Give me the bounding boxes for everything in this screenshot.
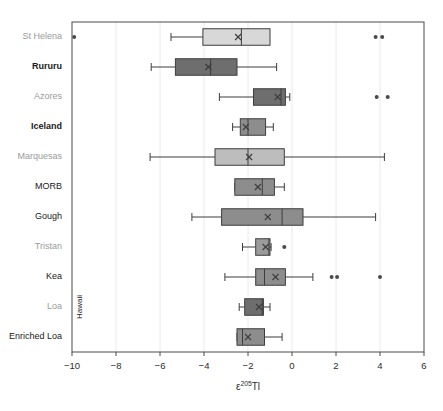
x-axis-title: ε205Tl	[236, 380, 260, 392]
box-rect	[245, 299, 264, 316]
outlier-point-1	[374, 35, 378, 39]
box-group-enriched-loa[interactable]	[237, 329, 282, 346]
box-group-loa[interactable]	[239, 299, 270, 316]
boxplot-svg: −10−8−6−4−20246ε205TlSt HelenaRururuAzor…	[0, 0, 443, 411]
box-rect	[240, 119, 265, 136]
box-group-morb[interactable]	[235, 179, 284, 196]
box-rect	[175, 59, 237, 76]
box-rect	[222, 209, 303, 226]
outlier-point-0	[282, 245, 286, 249]
category-label-loa: Loa	[47, 301, 62, 311]
outlier-point-1	[386, 95, 390, 99]
box-rect	[237, 329, 265, 346]
xtick-label-8: 6	[421, 360, 426, 371]
box-group-azores[interactable]	[219, 89, 389, 106]
xtick-label-7: 4	[377, 360, 382, 371]
box-group-tristan[interactable]	[243, 239, 287, 256]
category-label-azores: Azores	[34, 91, 63, 101]
group-label-hawaii: Hawaii	[75, 295, 84, 319]
box-rect	[256, 269, 286, 286]
box-group-marquesas[interactable]	[150, 149, 384, 166]
xtick-label-4: −2	[243, 360, 254, 371]
box-rect	[235, 179, 275, 196]
category-label-tristan: Tristan	[35, 241, 62, 251]
category-label-rururu: Rururu	[32, 61, 62, 71]
xtick-label-6: 2	[333, 360, 338, 371]
category-label-marquesas: Marquesas	[17, 151, 62, 161]
outlier-point-0	[375, 95, 379, 99]
box-group-st-helena[interactable]	[72, 29, 384, 46]
box-group-gough[interactable]	[192, 209, 376, 226]
category-label-gough: Gough	[35, 211, 62, 221]
outlier-point-2	[378, 275, 382, 279]
box-group-iceland[interactable]	[233, 119, 274, 136]
boxplot-figure: −10−8−6−4−20246ε205TlSt HelenaRururuAzor…	[0, 0, 443, 411]
outlier-point-1	[335, 275, 339, 279]
bottom-margin-strip	[0, 405, 443, 411]
xtick-label-3: −4	[199, 360, 210, 371]
xtick-label-1: −8	[111, 360, 122, 371]
category-label-iceland: Iceland	[31, 121, 62, 131]
category-label-morb: MORB	[35, 181, 62, 191]
box-rect	[256, 239, 270, 256]
box-group-rururu[interactable]	[151, 59, 276, 76]
category-label-enriched-loa: Enriched Loa	[9, 331, 62, 341]
box-rect	[203, 29, 270, 46]
category-label-st-helena: St Helena	[22, 31, 62, 41]
box-group-kea[interactable]	[225, 269, 382, 286]
xtick-label-2: −6	[155, 360, 166, 371]
xtick-label-0: −10	[64, 360, 80, 371]
outlier-point-0	[330, 275, 334, 279]
category-label-kea: Kea	[46, 271, 62, 281]
top-margin-strip	[0, 0, 443, 6]
outlier-point-2	[380, 35, 384, 39]
xtick-label-5: 0	[289, 360, 294, 371]
outlier-point-0	[72, 35, 76, 39]
